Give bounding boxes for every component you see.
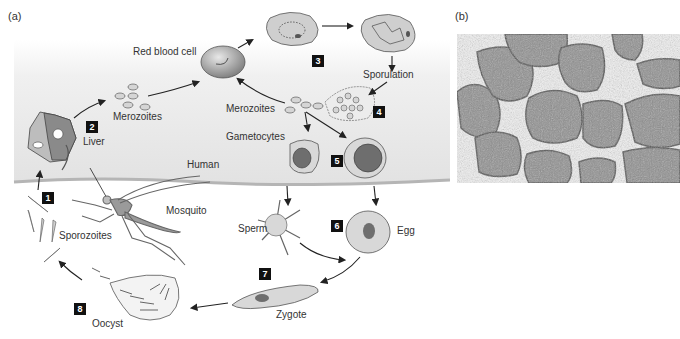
label-oocyst: Oocyst: [92, 318, 123, 329]
step-6-badge: 6: [331, 220, 343, 232]
step-8-badge: 8: [74, 303, 86, 315]
label-sperm: Sperm: [238, 223, 267, 234]
step-7-badge: 7: [259, 268, 271, 280]
step-2-badge: 2: [86, 121, 98, 133]
label-sporozoites: Sporozoites: [59, 230, 112, 241]
label-merozoites-liver: Merozoites: [113, 111, 162, 122]
step-1-badge: 1: [42, 192, 54, 204]
red-blood-cell-icon: [201, 46, 245, 78]
oocyst-icon: [92, 268, 179, 320]
ring-stage-cell-icon: [266, 12, 318, 45]
label-gametocytes: Gametocytes: [226, 131, 285, 142]
label-red-blood-cell: Red blood cell: [133, 46, 196, 57]
zygote-icon: [232, 285, 318, 309]
sporozoites-icon: [28, 196, 60, 262]
oocyst-micrograph: [457, 34, 680, 183]
label-zygote: Zygote: [276, 309, 307, 320]
life-cycle-diagram: [0, 0, 450, 339]
label-egg: Egg: [397, 225, 415, 236]
label-liver: Liver: [83, 136, 105, 147]
panel-b-label: (b): [455, 10, 468, 22]
egg-icon: [346, 211, 390, 253]
step-5-badge: 5: [331, 155, 343, 167]
label-mosquito: Mosquito: [166, 205, 207, 216]
label-human: Human: [187, 159, 219, 170]
step-4-badge: 4: [373, 106, 385, 118]
step-3-badge: 3: [312, 55, 324, 67]
label-merozoites-blood: Merozoites: [226, 103, 275, 114]
label-sporulation: Sporulation: [363, 69, 414, 80]
